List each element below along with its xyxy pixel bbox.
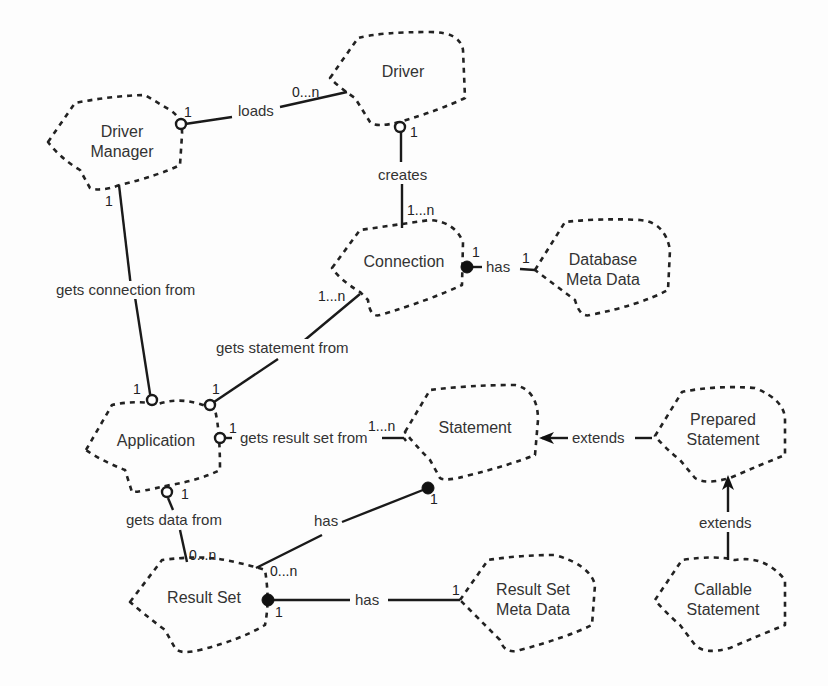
- node-label: Result Set: [167, 588, 241, 608]
- mult-conn-has: 1: [472, 244, 480, 260]
- open-circle-icon: [176, 119, 186, 129]
- node-callable-statement: Callable Statement: [687, 580, 760, 620]
- edge-label-creates: creates: [376, 166, 429, 184]
- node-label: Driver: [90, 122, 153, 142]
- edge-label-extends-ps: extends: [570, 429, 627, 447]
- node-label: Statement: [687, 430, 760, 450]
- node-label: Connection: [364, 252, 445, 272]
- mult-rs-has: 1: [275, 604, 283, 620]
- mult-app-gets-result-set: 1: [229, 420, 237, 436]
- node-database-meta-data: Database Meta Data: [566, 250, 640, 290]
- edge-label-gets-result-set: gets result set from: [238, 429, 370, 447]
- filled-circle-icon: [262, 594, 274, 606]
- node-label: Statement: [687, 600, 760, 620]
- node-result-set-meta-data: Result Set Meta Data: [496, 580, 570, 620]
- node-statement: Statement: [439, 418, 512, 438]
- mult-dm-loads: 1: [184, 104, 192, 120]
- node-connection: Connection: [364, 252, 445, 272]
- open-circle-icon: [162, 487, 172, 497]
- edge-label-rs-has: has: [353, 591, 381, 609]
- node-label: Prepared: [687, 410, 760, 430]
- node-label: Statement: [439, 418, 512, 438]
- mult-app-gets-data: 1: [181, 486, 189, 502]
- node-label: Result Set: [496, 580, 570, 600]
- node-label: Application: [117, 431, 195, 451]
- edge-label-gets-connection: gets connection from: [54, 281, 197, 299]
- mult-dbmd-has: 1: [522, 250, 530, 266]
- node-result-set: Result Set: [167, 588, 241, 608]
- edge-label-conn-has: has: [484, 258, 512, 276]
- mult-dm-gets-connection: 1: [105, 193, 113, 209]
- mult-rs-stmt-has: 0...n: [270, 563, 297, 579]
- edge-label-stmt-has: has: [312, 512, 340, 530]
- node-prepared-statement: Prepared Statement: [687, 410, 760, 450]
- node-label: Driver: [382, 62, 425, 82]
- edge-label-gets-data: gets data from: [124, 511, 224, 529]
- mult-conn-gets-statement: 1...n: [318, 288, 345, 304]
- edge-label-loads: loads: [236, 102, 276, 120]
- mult-rsmd-has: 1: [452, 582, 460, 598]
- open-circle-icon: [205, 400, 215, 410]
- node-label: Callable: [687, 580, 760, 600]
- diagram-canvas: Driver Manager Driver Connection Databas…: [0, 0, 828, 686]
- mult-stmt-has: 1: [430, 491, 438, 507]
- node-label: Manager: [90, 142, 153, 162]
- mult-conn-creates: 1...n: [407, 202, 434, 218]
- open-circle-icon: [215, 433, 225, 443]
- open-circle-icon: [395, 122, 405, 132]
- node-driver-manager: Driver Manager: [90, 122, 153, 162]
- mult-app-gets-connection: 1: [133, 381, 141, 397]
- node-label: Meta Data: [566, 270, 640, 290]
- node-label: Meta Data: [496, 600, 570, 620]
- edge-label-gets-statement: gets statement from: [214, 339, 351, 357]
- mult-app-gets-statement: 1: [212, 381, 220, 397]
- filled-circle-icon: [461, 261, 473, 273]
- node-driver: Driver: [382, 62, 425, 82]
- mult-stmt-gets-result-set: 1...n: [368, 418, 395, 434]
- open-circle-icon: [147, 395, 157, 405]
- node-application: Application: [117, 431, 195, 451]
- mult-driver-creates: 1: [410, 124, 418, 140]
- edge-label-extends-cs: extends: [697, 514, 754, 532]
- mult-driver-loads: 0...n: [292, 84, 319, 100]
- node-label: Database: [566, 250, 640, 270]
- mult-rs-gets-data: 0...n: [189, 547, 216, 563]
